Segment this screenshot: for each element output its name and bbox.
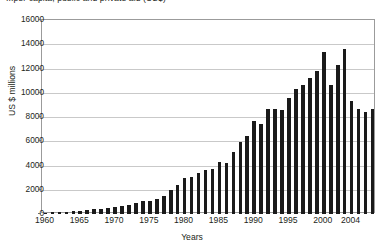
x-tick-label: 1990 xyxy=(236,216,270,225)
bar xyxy=(315,71,319,214)
bar xyxy=(266,109,270,214)
bar xyxy=(78,211,82,214)
bar xyxy=(301,85,305,214)
bar xyxy=(287,98,291,214)
bar xyxy=(357,109,361,214)
bar xyxy=(85,210,89,214)
y-tick-mark xyxy=(38,213,41,214)
x-tick-label: 1975 xyxy=(132,216,166,225)
bar xyxy=(92,209,96,214)
bar xyxy=(273,109,277,214)
bar xyxy=(322,52,326,214)
bar xyxy=(162,196,166,214)
bar xyxy=(106,208,110,214)
x-tick-label: 1995 xyxy=(271,216,305,225)
bar xyxy=(211,169,215,214)
bar xyxy=(176,185,180,214)
bar xyxy=(308,78,312,214)
bar xyxy=(197,173,201,214)
x-tick-label: 1980 xyxy=(167,216,201,225)
bar xyxy=(232,152,236,214)
y-tick-mark xyxy=(38,189,41,190)
y-tick-mark xyxy=(38,165,41,166)
bar xyxy=(259,124,263,214)
bar xyxy=(190,177,194,214)
bar xyxy=(294,89,298,214)
y-tick-mark xyxy=(38,43,41,44)
chart-title: ...per capita, public and private aid (U… xyxy=(6,0,166,3)
x-tick-label: 1965 xyxy=(62,216,96,225)
bar xyxy=(329,85,333,214)
x-tick-label: 1970 xyxy=(97,216,131,225)
bar xyxy=(245,136,249,214)
bar xyxy=(336,65,340,214)
bar xyxy=(155,199,159,214)
plot-area xyxy=(41,19,375,213)
y-tick-mark xyxy=(38,92,41,93)
x-tick-label: 1985 xyxy=(201,216,235,225)
bar xyxy=(65,212,69,214)
x-tick-label: 2004 xyxy=(334,216,368,225)
bar xyxy=(204,170,208,214)
bar xyxy=(134,203,138,214)
bar xyxy=(44,213,48,214)
bar xyxy=(218,162,222,214)
bar xyxy=(350,101,354,214)
bar-chart: ...per capita, public and private aid (U… xyxy=(0,0,384,248)
bar xyxy=(72,211,76,214)
bar xyxy=(183,178,187,214)
bar xyxy=(239,142,243,214)
bar xyxy=(99,209,103,214)
bar xyxy=(280,110,284,214)
bar xyxy=(51,212,55,214)
bar xyxy=(148,201,152,214)
y-tick-mark xyxy=(38,19,41,20)
bar xyxy=(127,205,131,214)
bar xyxy=(343,49,347,214)
bar xyxy=(169,190,173,214)
bar-series xyxy=(42,20,376,214)
bar xyxy=(58,212,62,214)
bar xyxy=(141,201,145,214)
x-axis-title: Years xyxy=(0,232,384,242)
bar xyxy=(252,121,256,214)
bar xyxy=(225,163,229,214)
bar xyxy=(364,112,368,214)
bar xyxy=(371,109,375,214)
y-tick-mark xyxy=(38,68,41,69)
y-tick-mark xyxy=(38,140,41,141)
bar xyxy=(113,207,117,214)
bar xyxy=(120,206,124,214)
y-tick-mark xyxy=(38,116,41,117)
x-tick-label: 1960 xyxy=(28,216,62,225)
